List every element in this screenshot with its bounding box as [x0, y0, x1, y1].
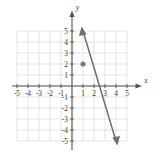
y-tick-label-neg4: -4 — [62, 126, 68, 135]
y-tick-label-5: 5 — [64, 27, 68, 36]
y-tick-label-2: 2 — [64, 60, 68, 69]
y-tick-label-neg1: -1 — [62, 93, 68, 102]
y-tick-label-3: 3 — [64, 49, 68, 58]
coordinate-plane-svg: -5 -4 -3 -2 -1 1 2 3 4 5 5 4 3 2 1 -1 -2… — [0, 0, 154, 158]
y-tick-label-neg3: -3 — [62, 115, 68, 124]
x-tick-label-neg5: -5 — [14, 89, 20, 98]
x-tick-label-1: 1 — [81, 89, 85, 98]
marked-point — [80, 61, 85, 66]
x-tick-label-neg2: -2 — [47, 89, 53, 98]
y-tick-label-4: 4 — [64, 38, 68, 47]
x-axis-label: x — [143, 76, 148, 85]
x-tick-label-neg4: -4 — [25, 89, 31, 98]
y-tick-label-1: 1 — [64, 71, 68, 80]
x-tick-label-2: 2 — [92, 89, 96, 98]
x-tick-label-4: 4 — [114, 89, 118, 98]
y-tick-label-neg2: -2 — [62, 104, 68, 113]
x-tick-label-5: 5 — [125, 89, 129, 98]
coordinate-graph-figure: -5 -4 -3 -2 -1 1 2 3 4 5 5 4 3 2 1 -1 -2… — [0, 0, 154, 158]
y-tick-label-neg5: -5 — [62, 137, 68, 146]
x-axis — [12, 83, 142, 88]
y-axis-label: y — [75, 3, 80, 12]
x-tick-label-neg3: -3 — [36, 89, 42, 98]
x-tick-label-3: 3 — [103, 89, 107, 98]
